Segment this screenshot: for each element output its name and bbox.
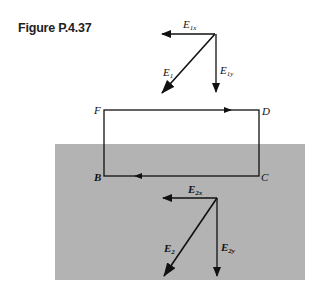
e1y-label: E1y	[219, 64, 234, 78]
circuit-loop: F D B C	[93, 104, 270, 183]
e2-label: E2	[163, 242, 175, 256]
loop-rectangle	[104, 110, 259, 176]
e2-arrow	[164, 198, 217, 276]
point-f-label: F	[93, 104, 101, 116]
field-diagram: E1x E1 E1y F D B C E2x E2 E2y	[0, 0, 322, 286]
lower-vector-set: E2x E2 E2y	[163, 183, 236, 276]
point-c-label: C	[261, 171, 269, 183]
point-d-label: D	[261, 105, 270, 117]
top-direction-arrow	[224, 107, 232, 113]
bottom-direction-arrow	[134, 173, 142, 179]
e2y-label: E2y	[220, 241, 236, 255]
e1-label: E1	[162, 66, 173, 80]
e1x-label: E1x	[182, 18, 197, 32]
point-b-label: B	[93, 171, 101, 183]
e2x-label: E2x	[187, 183, 203, 197]
upper-vector-set: E1x E1 E1y	[162, 18, 234, 93]
e1-arrow	[162, 34, 215, 93]
